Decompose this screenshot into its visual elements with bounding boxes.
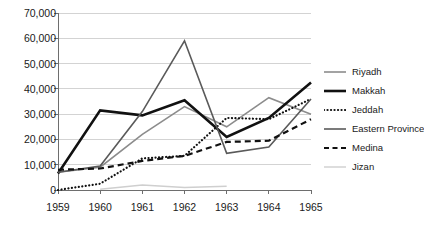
legend-item-label: Riyadh bbox=[352, 66, 382, 77]
legend-item-label: Jeddah bbox=[352, 104, 383, 115]
x-axis-tick-labels: 1959196019611962196319641965 bbox=[0, 0, 316, 248]
legend-item-label: Eastern Province bbox=[352, 123, 424, 134]
legend-item-riyadh[interactable]: Riyadh bbox=[324, 62, 420, 81]
x-axis-tick-label: 1965 bbox=[288, 202, 334, 213]
legend-swatch-icon bbox=[324, 161, 346, 173]
legend-item-label: Makkah bbox=[352, 85, 385, 96]
legend-item-jeddah[interactable]: Jeddah bbox=[324, 100, 420, 119]
legend-swatch-icon bbox=[324, 142, 346, 154]
x-axis-tick-label: 1962 bbox=[162, 202, 208, 213]
legend-item-jizan[interactable]: Jizan bbox=[324, 157, 420, 176]
legend-item-makkah[interactable]: Makkah bbox=[324, 81, 420, 100]
legend-item-label: Jizan bbox=[352, 161, 374, 172]
legend-swatch-icon bbox=[324, 66, 346, 78]
legend-swatch-icon bbox=[324, 104, 346, 116]
legend-swatch-icon bbox=[324, 123, 346, 135]
legend-item-medina[interactable]: Medina bbox=[324, 138, 420, 157]
x-axis-tick-label: 1961 bbox=[119, 202, 165, 213]
x-axis-tick-label: 1963 bbox=[204, 202, 250, 213]
legend-swatch-icon bbox=[324, 85, 346, 97]
x-axis-tick-label: 1964 bbox=[246, 202, 292, 213]
x-axis-tick-label: 1959 bbox=[35, 202, 81, 213]
x-axis-tick-label: 1960 bbox=[77, 202, 123, 213]
legend-item-label: Medina bbox=[352, 142, 383, 153]
chart-legend: RiyadhMakkahJeddahEastern ProvinceMedina… bbox=[324, 62, 420, 176]
legend-item-eastern-province[interactable]: Eastern Province bbox=[324, 119, 420, 138]
